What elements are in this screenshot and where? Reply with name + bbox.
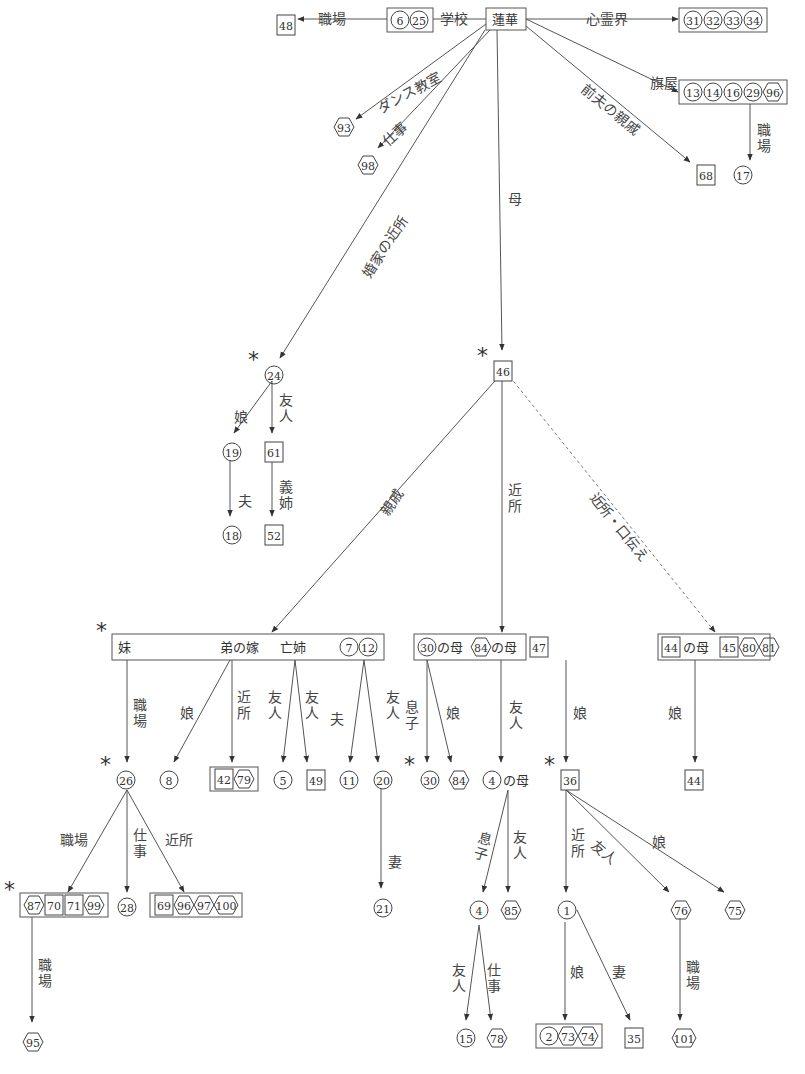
node-n95: 95 bbox=[23, 1033, 43, 1051]
square-number-icon: 69 bbox=[155, 895, 173, 915]
node-n44b: 44 bbox=[685, 770, 703, 790]
node-mother4: 4の母 bbox=[483, 771, 529, 789]
edge-label: 妻 bbox=[388, 854, 402, 870]
person-number: 76 bbox=[674, 905, 688, 918]
edge-label: 仕事 bbox=[487, 962, 501, 994]
edge: 娘 bbox=[668, 660, 695, 762]
node-n98: 98 bbox=[358, 156, 378, 174]
circle-number-icon: 16 bbox=[724, 83, 742, 101]
node-n46: *46 bbox=[477, 343, 512, 381]
node-n1: 1 bbox=[558, 901, 576, 919]
circle-number-icon: 12 bbox=[359, 638, 377, 656]
edge-label: 息子 bbox=[472, 829, 494, 864]
node-n26: *26 bbox=[100, 752, 135, 789]
hexagon-number-icon: 85 bbox=[501, 901, 521, 919]
node-n85: 85 bbox=[501, 901, 521, 919]
person-number: 61 bbox=[267, 447, 281, 460]
relationship-diagram: 学校職場心霊界旗屋職場ダンス教室仕事前夫の親戚母婚家の近所娘友人夫義姉親戚近所近… bbox=[0, 0, 805, 1074]
node-n101: 101 bbox=[672, 1029, 696, 1047]
circle-number-icon: 29 bbox=[744, 83, 762, 101]
node-g42_79: 4279 bbox=[210, 767, 258, 791]
node-n49: 49 bbox=[307, 770, 325, 790]
node-n18: 18 bbox=[223, 526, 241, 544]
person-number: 16 bbox=[726, 87, 740, 100]
person-number: 18 bbox=[225, 530, 239, 543]
square-number-icon: 49 bbox=[307, 770, 325, 790]
edge: 仕事 bbox=[127, 790, 147, 892]
edge: 職場 bbox=[127, 660, 147, 762]
square-number-icon: 48 bbox=[277, 15, 295, 35]
edge: 近所 bbox=[502, 373, 522, 632]
edge-label: 友人 bbox=[513, 829, 527, 861]
edge: 妻 bbox=[577, 910, 630, 1020]
edge-label: 心霊界 bbox=[586, 11, 628, 27]
edge-label: 友人 bbox=[509, 699, 523, 731]
square-number-icon: 47 bbox=[530, 637, 548, 657]
edge-label: 親戚 bbox=[377, 486, 406, 518]
edge: 友人 bbox=[508, 790, 527, 892]
edge: 義姉 bbox=[272, 460, 293, 516]
asterisk-marker: * bbox=[96, 618, 107, 643]
person-number: 85 bbox=[504, 905, 518, 918]
edge-label: 学校 bbox=[440, 11, 468, 27]
edge: 友人 bbox=[295, 660, 319, 762]
edge-label: 職場 bbox=[60, 832, 88, 848]
edge-label: 近所・口伝え bbox=[586, 489, 651, 564]
circle-number-icon: 8 bbox=[160, 771, 178, 789]
relation-label: の母 bbox=[491, 640, 517, 655]
node-n8: 8 bbox=[160, 771, 178, 789]
person-number: 97 bbox=[197, 900, 211, 913]
edge-label: 友人 bbox=[386, 689, 400, 721]
edge-label: 娘 bbox=[446, 705, 460, 721]
edge-label: 友人 bbox=[588, 837, 620, 867]
person-number: 4 bbox=[476, 905, 483, 918]
edge-label: 夫 bbox=[238, 493, 252, 509]
person-number: 14 bbox=[706, 87, 720, 100]
node-n4: 4 bbox=[470, 901, 488, 919]
circle-number-icon: 34 bbox=[744, 11, 762, 29]
edge: 友人 bbox=[268, 660, 295, 762]
circle-number-icon: 17 bbox=[734, 166, 752, 184]
person-number: 98 bbox=[361, 160, 375, 173]
edge: 友人 bbox=[364, 660, 400, 762]
person-number: 45 bbox=[722, 642, 736, 655]
person-number: 75 bbox=[728, 905, 742, 918]
person-number: 29 bbox=[746, 87, 760, 100]
hexagon-number-icon: 101 bbox=[672, 1029, 696, 1047]
relation-label: の母 bbox=[683, 640, 709, 655]
person-number: 71 bbox=[67, 900, 81, 913]
node-n5: 5 bbox=[274, 771, 292, 789]
edge: 心霊界 bbox=[526, 11, 678, 27]
relation-label: 妹 bbox=[118, 640, 131, 655]
node-renge: 蓮華 bbox=[486, 8, 526, 30]
person-number: 96 bbox=[177, 900, 191, 913]
dashed-arrow-line bbox=[506, 372, 715, 632]
person-number: 26 bbox=[119, 775, 133, 788]
edge-label: 近所 bbox=[237, 689, 251, 721]
person-number: 70 bbox=[47, 900, 61, 913]
person-number: 68 bbox=[699, 170, 713, 183]
edge: 近所・口伝え bbox=[506, 372, 715, 632]
square-number-icon: 42 bbox=[215, 769, 233, 789]
circle-number-icon: 13 bbox=[684, 83, 702, 101]
circle-number-icon: 32 bbox=[704, 11, 722, 29]
edge: 親戚 bbox=[272, 373, 502, 632]
node-g87: *87707199 bbox=[4, 877, 108, 917]
person-number: 46 bbox=[496, 366, 510, 379]
edge-label: 職場 bbox=[686, 959, 700, 991]
edge: 仕事 bbox=[378, 30, 490, 149]
circle-number-icon: 4 bbox=[483, 771, 501, 789]
person-number: 7 bbox=[346, 642, 353, 655]
asterisk-marker: * bbox=[404, 752, 415, 777]
person-number: 17 bbox=[736, 170, 750, 183]
square-number-icon: 45 bbox=[720, 637, 738, 657]
node-n84: 84 bbox=[449, 771, 469, 789]
node-n15: 15 bbox=[457, 1029, 475, 1047]
node-n78: 78 bbox=[487, 1029, 507, 1047]
arrow-line bbox=[234, 381, 272, 433]
edge-label: 妻 bbox=[612, 964, 626, 980]
person-number: 30 bbox=[423, 775, 437, 788]
edges-layer: 学校職場心霊界旗屋職場ダンス教室仕事前夫の親戚母婚家の近所娘友人夫義姉親戚近所近… bbox=[32, 11, 771, 1022]
person-number: 36 bbox=[563, 775, 577, 788]
circle-number-icon: 14 bbox=[704, 83, 722, 101]
